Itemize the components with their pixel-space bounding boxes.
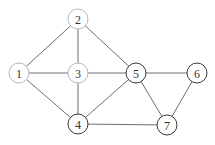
graph-canvas: 1234567 bbox=[0, 0, 215, 145]
edge-4-5 bbox=[78, 73, 136, 124]
node-7: 7 bbox=[157, 115, 177, 135]
node-label: 1 bbox=[16, 67, 22, 81]
node-layer: 1234567 bbox=[9, 9, 207, 135]
edge-2-5 bbox=[78, 19, 136, 73]
edge-layer bbox=[19, 19, 197, 125]
node-1: 1 bbox=[9, 63, 29, 83]
node-6: 6 bbox=[187, 63, 207, 83]
edge-1-4 bbox=[19, 73, 78, 124]
node-label: 2 bbox=[75, 13, 81, 27]
node-3: 3 bbox=[68, 63, 88, 83]
edge-1-2 bbox=[19, 19, 78, 73]
node-4: 4 bbox=[68, 114, 88, 134]
node-label: 3 bbox=[75, 67, 81, 81]
node-label: 5 bbox=[133, 67, 139, 81]
edge-4-7 bbox=[78, 124, 167, 125]
node-5: 5 bbox=[126, 63, 146, 83]
node-2: 2 bbox=[68, 9, 88, 29]
node-label: 6 bbox=[194, 67, 200, 81]
node-label: 7 bbox=[164, 119, 170, 133]
node-label: 4 bbox=[75, 118, 81, 132]
